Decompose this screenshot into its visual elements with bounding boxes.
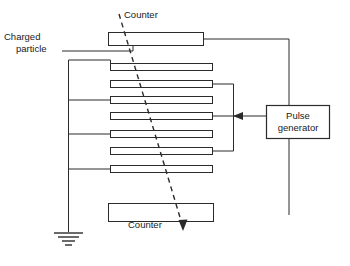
charged-particle-label-line1: Charged [4,31,40,42]
left-bus-group [69,60,111,232]
diagram-canvas: Pulse generator Counter Charged particle… [0,0,350,266]
drift-plate-2 [111,81,214,88]
counter-top-group [109,33,204,46]
right-bus-group [213,84,267,151]
charged-particle-detector-diagram: Pulse generator Counter Charged particle… [0,0,350,266]
charged-particle-label-line2: particle [16,43,47,54]
drift-plate-4 [111,113,214,120]
drift-plate-6 [111,148,214,155]
wire-counter-top-to-pulse-generator [204,39,290,105]
drift-plate-1 [111,64,214,71]
charged-particle-leader-line [62,46,133,51]
drift-plate-3 [111,97,214,104]
particle-direction-arrow-icon [179,220,188,232]
arrow-pulse-into-plates-icon [233,112,243,120]
counter-bottom-label: Counter [128,219,162,230]
ground-symbol [54,233,83,245]
pulse-generator-block: Pulse generator [267,106,330,139]
counter-top-plate [109,33,204,46]
particle-trajectory-group [119,14,188,231]
drift-plate-5 [111,131,214,138]
drift-plate-7 [111,166,214,173]
pulse-generator-label-line1: Pulse [286,110,310,121]
left-bus-stub-plate-1 [69,60,111,64]
counter-top-label: Counter [124,9,158,20]
pulse-generator-label-line2: generator [278,122,319,133]
